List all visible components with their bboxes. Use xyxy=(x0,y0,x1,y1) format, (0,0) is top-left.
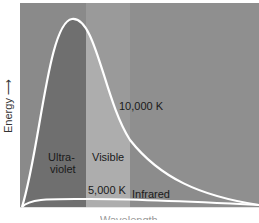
label-infrared: Infrared xyxy=(132,188,170,200)
y-axis-label: Energy ⟶ xyxy=(2,76,14,136)
label-ultra: Ultra- xyxy=(48,151,75,163)
label-5000k: 5,000 K xyxy=(88,184,126,196)
label-10000k: 10,000 K xyxy=(119,100,163,112)
blackbody-chart: Energy ⟶ 10,000 K Ultra- violet Visible … xyxy=(0,0,259,223)
label-visible: Visible xyxy=(92,151,124,163)
label-violet: violet xyxy=(50,163,76,175)
